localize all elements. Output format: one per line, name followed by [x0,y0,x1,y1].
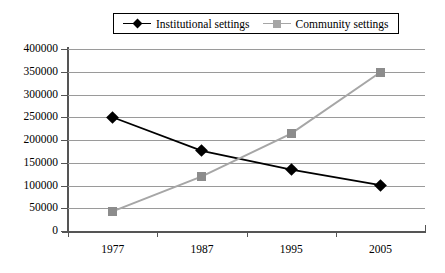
data-point-marker [376,68,385,77]
data-point-marker [197,172,206,181]
x-axis-tick-label: 1977 [83,243,143,255]
square-marker-icon [263,18,291,30]
x-axis-tick-label: 2005 [350,243,410,255]
legend-item-community-settings: Community settings [263,18,389,30]
legend-label-community-settings: Community settings [296,18,389,30]
x-axis-tick [247,231,248,237]
y-axis-tick-label: 200000 [2,134,58,146]
x-axis-tick-label: 1995 [261,243,321,255]
x-axis-tick [425,225,426,232]
diamond-marker-icon [123,18,151,30]
plot-area [68,49,425,231]
data-point-marker [287,129,296,138]
series-line-community-settings [113,72,381,211]
x-axis-tick-label: 1987 [172,243,232,255]
y-axis-tick-label: 100000 [2,180,58,192]
line-chart: Institutional settings Community setting… [0,0,445,273]
data-point-marker [108,207,117,216]
y-axis-tick-label: 150000 [2,157,58,169]
x-axis-line [62,231,426,233]
y-axis-tick-label: 300000 [2,89,58,101]
y-axis-tick-label: 400000 [2,43,58,55]
chart-legend: Institutional settings Community setting… [113,13,399,34]
x-axis-tick [336,231,337,237]
x-axis-tick [68,231,69,237]
legend-label-institutional-settings: Institutional settings [156,18,250,30]
y-axis-tick-label: 50000 [2,202,58,214]
legend-item-institutional-settings: Institutional settings [123,18,250,30]
y-axis-labels: 0500001000001500002000002500003000003500… [0,0,58,273]
series-line-institutional-settings [113,117,381,185]
y-axis-tick-label: 350000 [2,66,58,78]
y-axis-tick-label: 0 [2,225,58,237]
x-axis-tick [157,231,158,237]
series-lines [68,49,425,231]
y-axis-tick-label: 250000 [2,111,58,123]
